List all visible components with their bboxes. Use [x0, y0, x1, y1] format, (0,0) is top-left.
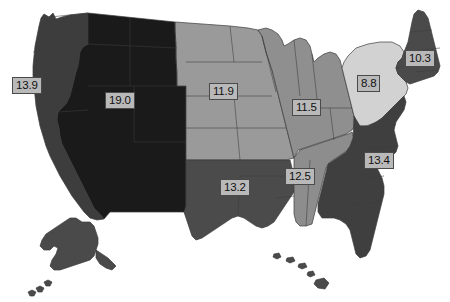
region-value-label-south-atlantic: 13.4	[364, 152, 394, 169]
region-new-england	[396, 10, 440, 84]
region-value-label-mid-atlantic: 8.8	[357, 75, 380, 92]
region-value-label-esc: 12.5	[285, 168, 315, 185]
region-value-label-enc: 11.5	[292, 99, 321, 116]
us-choropleth-map: 13.9 19.0 11.9 11.5 8.8 10.3 13.2 12.5 1…	[0, 0, 450, 302]
inset-alaska-tail	[96, 250, 116, 270]
map-svg	[0, 0, 450, 302]
region-wsc	[184, 160, 296, 240]
inset-alaska	[28, 218, 98, 296]
inset-hawaii	[273, 253, 329, 289]
region-value-label-wnc: 11.9	[209, 83, 238, 100]
region-value-label-new-england: 10.3	[405, 50, 435, 67]
region-value-label-mountain: 19.0	[105, 92, 135, 109]
region-value-label-pacific: 13.9	[12, 77, 42, 94]
region-value-label-wsc: 13.2	[220, 179, 250, 196]
